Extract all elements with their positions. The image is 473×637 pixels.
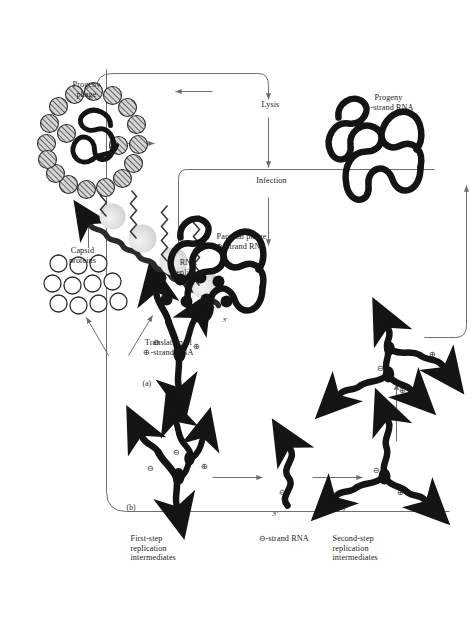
panel-tag-d: (d)	[340, 399, 349, 408]
panel-a-minus-symbol: ⊖	[152, 337, 159, 346]
label-second-step: Second-step replication intermediates	[332, 533, 402, 562]
figure-page: Second-step replication intermediates ⊖-…	[0, 0, 473, 637]
panel-d-plus-symbol-2: ⊕	[428, 349, 435, 358]
translation-three-prime: 3'	[222, 315, 227, 323]
panel-tag-b: (b)	[126, 503, 135, 512]
panel-d-plus-symbol-1: ⊕	[398, 385, 405, 394]
flow-arrows	[86, 73, 466, 477]
arrow-d-to-progeny	[424, 185, 466, 337]
panel-tag-c: (c)	[336, 503, 345, 512]
panel-a-five-prime: 5'	[146, 289, 151, 297]
panel-c-five-prime: 5'	[424, 507, 429, 515]
arrow-mrna-to-capsid	[86, 317, 108, 355]
panel-b-minus-symbol-2: ⊖	[172, 447, 179, 456]
panel-c-three-prime: 3'	[330, 503, 335, 511]
panel-d-structure	[340, 329, 442, 393]
label-parental-phage: Parental phage ⊕-strand RNA	[200, 231, 282, 250]
minus-strand-three-prime: 3'	[272, 509, 277, 517]
panel-d-three-prime: 3'	[334, 401, 339, 409]
label-progeny-phage: Progeny phage	[60, 79, 112, 98]
panel-b-plus-symbol: ⊕	[200, 461, 207, 470]
panel-d-five-prime: 5'	[444, 373, 449, 381]
panel-tag-a: (a)	[142, 379, 151, 388]
label-lysis: Lysis	[250, 99, 290, 109]
progeny-phage-particle	[37, 82, 147, 198]
label-first-step: First-step replication intermediates	[130, 533, 202, 562]
panel-c-structure	[336, 421, 424, 499]
panel-b-minus-symbol-1: ⊖	[146, 463, 153, 472]
panel-b-five-prime: 5'	[134, 431, 139, 439]
label-rna-replicase: RNA replicase	[162, 257, 214, 276]
figure-canvas: Second-step replication intermediates ⊖-…	[0, 0, 473, 637]
panel-c-plus-symbol: ⊕	[396, 487, 403, 496]
minus-strand-symbol: ⊖	[278, 487, 285, 496]
encapsidated-rna	[72, 110, 116, 162]
translation-five-prime: 5'	[84, 221, 89, 229]
panel-b-three-prime: 3'	[210, 431, 215, 439]
progeny-plus-strand-rna-structure	[328, 98, 421, 199]
label-capsid-proteins: Capsid proteins	[56, 245, 108, 264]
label-minus-strand-rna: ⊖-strand RNA	[258, 533, 328, 543]
panel-a-three-prime: 3'	[200, 313, 205, 321]
panel-c-minus-symbol: ⊖	[372, 465, 379, 474]
panel-a-plus-symbol: ⊕	[192, 341, 199, 350]
pathway-frame	[106, 69, 449, 511]
label-infection: Infection	[248, 175, 294, 185]
panel-d-minus-symbol: ⊖	[376, 363, 383, 372]
ribosome	[128, 224, 156, 252]
label-progeny-plus-rna: Progeny ⊕-strand RNA	[350, 92, 426, 111]
